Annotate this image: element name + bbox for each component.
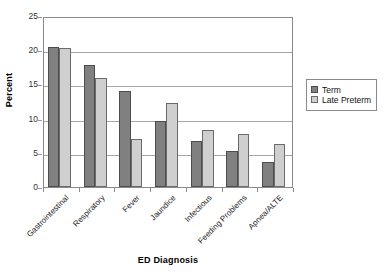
bar xyxy=(119,91,131,187)
bar-group xyxy=(44,18,80,187)
legend-swatch-icon xyxy=(311,86,318,93)
bar-group xyxy=(151,18,187,187)
bar xyxy=(95,78,107,187)
bars-layer xyxy=(44,18,292,187)
bar xyxy=(238,134,250,187)
y-tick-mark xyxy=(38,51,42,52)
bar-group xyxy=(115,18,151,187)
y-tick-label: 5 xyxy=(20,149,38,158)
bar-group xyxy=(80,18,116,187)
bar xyxy=(155,121,167,187)
legend: TermLate Preterm xyxy=(306,79,377,111)
bar xyxy=(202,130,214,187)
bar xyxy=(226,151,238,187)
bar xyxy=(274,144,286,187)
bar-chart: Percent 0510152025 GastrointestinalRespi… xyxy=(0,0,387,278)
y-tick-mark xyxy=(38,17,42,18)
x-axis-category-labels: GastrointestinalRespiratoryFeverJaundice… xyxy=(0,190,387,252)
bar xyxy=(262,162,274,187)
bar xyxy=(131,139,143,187)
y-tick-mark xyxy=(38,85,42,86)
bar xyxy=(191,141,203,187)
plot-area xyxy=(43,17,293,188)
y-tick-mark xyxy=(38,154,42,155)
y-tick-mark xyxy=(38,188,42,189)
legend-swatch-icon xyxy=(311,96,318,103)
legend-label: Term xyxy=(322,86,341,95)
bar xyxy=(48,47,60,187)
legend-item: Term xyxy=(311,86,371,95)
bar-group xyxy=(187,18,223,187)
y-tick-label: 20 xyxy=(20,46,38,55)
y-tick-label: 15 xyxy=(20,80,38,89)
y-tick-mark xyxy=(38,120,42,121)
bar xyxy=(84,65,96,187)
y-tick-label: 25 xyxy=(20,12,38,21)
legend-label: Late Preterm xyxy=(322,96,371,105)
x-axis-title: ED Diagnosis xyxy=(43,255,293,265)
bar xyxy=(166,103,178,187)
bar-group xyxy=(223,18,259,187)
y-axis-title: Percent xyxy=(4,60,14,120)
bar xyxy=(59,48,71,187)
legend-item: Late Preterm xyxy=(311,96,371,105)
bar-group xyxy=(258,18,294,187)
y-tick-label: 10 xyxy=(20,115,38,124)
